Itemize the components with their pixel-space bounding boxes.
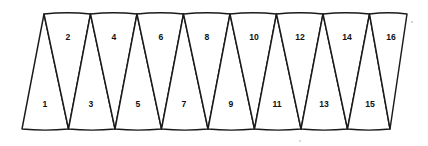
scan-speck-top-right <box>411 21 413 23</box>
triangle-strip-svg: 12345678910111213141516 <box>0 0 428 146</box>
triangle-label-4: 4 <box>112 32 117 42</box>
triangle-label-2: 2 <box>66 32 71 42</box>
triangle-label-6: 6 <box>159 32 164 42</box>
triangle-strip-figure: 12345678910111213141516 <box>0 0 428 146</box>
triangle-label-3: 3 <box>89 99 94 109</box>
triangle-faces-group <box>22 13 407 130</box>
triangle-label-9: 9 <box>229 99 234 109</box>
triangle-label-8: 8 <box>205 32 210 42</box>
triangle-label-15: 15 <box>365 99 375 109</box>
triangle-label-13: 13 <box>319 99 329 109</box>
triangle-label-5: 5 <box>136 99 141 109</box>
triangle-label-10: 10 <box>249 32 259 42</box>
triangle-label-14: 14 <box>342 32 352 42</box>
triangle-label-16: 16 <box>386 32 396 42</box>
triangle-label-7: 7 <box>182 99 187 109</box>
scan-speck-bottom <box>299 140 301 142</box>
triangle-label-11: 11 <box>272 99 281 109</box>
triangle-label-1: 1 <box>43 99 48 109</box>
triangle-label-12: 12 <box>295 32 305 42</box>
